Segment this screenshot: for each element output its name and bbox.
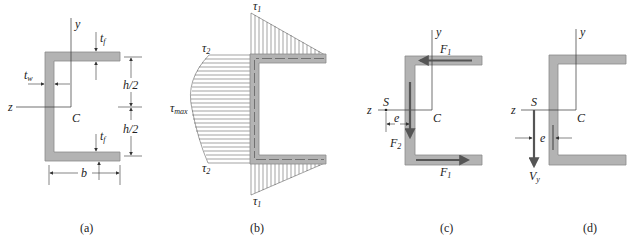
y-axis-label-a: y <box>74 17 81 31</box>
channel-section-b <box>250 54 326 164</box>
panel-b: τ1 τ2 τmax τ2 τ1 (b) <box>170 0 326 235</box>
centroid-label-c: C <box>433 111 442 125</box>
shear-flow-arrows <box>255 59 325 160</box>
caption-b: (b) <box>250 221 264 235</box>
shear-center-label-c: S <box>383 95 389 109</box>
z-axis-label-c: z <box>366 103 372 117</box>
panel-c: y z S C e F1 F2 F1 (c) <box>366 25 482 235</box>
channel-shear-flow-figure: y z C tf tf tw h/2 h/2 b (a) <box>0 0 634 242</box>
flange-stress-top <box>251 13 325 55</box>
centroid-label-a: C <box>72 111 81 125</box>
tf-bottom-label: tf <box>100 129 107 144</box>
caption-a: (a) <box>80 221 93 235</box>
h2-upper-label: h/2 <box>123 78 138 92</box>
channel-section-c <box>405 56 482 165</box>
panel-d: y z S C Vy e (d) <box>510 25 626 235</box>
shear-center-label-d: S <box>531 95 537 109</box>
flange-stress-bottom <box>251 163 325 195</box>
tau-max-label: τmax <box>170 101 188 116</box>
caption-d: (d) <box>583 221 597 235</box>
tau1-bottom-label: τ1 <box>253 194 261 209</box>
force-f1-bottom-label: F1 <box>439 165 451 180</box>
channel-section-a <box>45 52 120 161</box>
web-stress-distribution <box>190 55 251 163</box>
force-f1-top-label: F1 <box>439 42 451 57</box>
h2-lower-label: h/2 <box>123 122 138 136</box>
panel-a: y z C tf tf tw h/2 h/2 b (a) <box>7 17 142 235</box>
tw-label: tw <box>24 68 33 83</box>
z-axis-label-a: z <box>7 100 13 114</box>
y-axis-label-c: y <box>435 25 442 39</box>
centroid-label-d: C <box>577 111 586 125</box>
tf-top-label: tf <box>100 31 107 46</box>
shear-center-point-c <box>385 109 388 112</box>
shear-force-vy-label: Vy <box>529 169 540 184</box>
force-f2-label: F2 <box>389 136 401 151</box>
caption-c: (c) <box>440 221 453 235</box>
tau1-top-label: τ1 <box>253 0 261 14</box>
b-label: b <box>81 166 87 180</box>
e-label-c: e <box>394 111 400 125</box>
z-axis-label-d: z <box>510 103 516 117</box>
figure-canvas: y z C tf tf tw h/2 h/2 b (a) <box>0 0 634 242</box>
e-label-d: e <box>540 131 546 145</box>
tau2-top-label: τ2 <box>202 41 210 56</box>
y-axis-label-d: y <box>579 25 586 39</box>
